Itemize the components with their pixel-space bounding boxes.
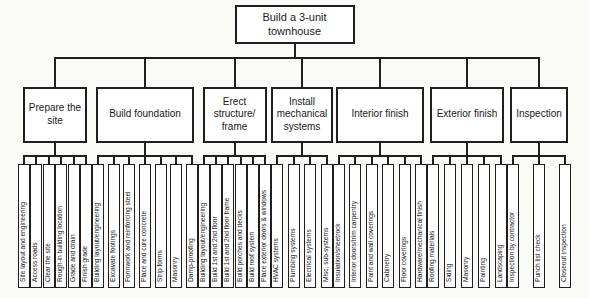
task-column: Formwork and reinforcing steel: [123, 164, 135, 288]
task-node: Landscaping: [495, 164, 507, 288]
task-column: Siding: [444, 164, 456, 288]
task-node: Strip forms: [155, 164, 167, 288]
task-row: Inspection by contractorPunch list check…: [507, 155, 571, 288]
task-node: Damp-proofing: [186, 164, 198, 288]
group-node-inspection: Inspection: [510, 87, 568, 143]
task-column: Damp-proofing: [186, 164, 198, 288]
task-node: Formwork and reinforcing steel: [123, 164, 135, 288]
task-column: Insulation/sheetrock: [333, 164, 345, 288]
task-node: Closeout inspection: [559, 164, 571, 288]
task-node: Electrical systems: [304, 164, 316, 288]
group-node-install-mechanical-systems: Install mechanical systems: [271, 87, 333, 143]
task-column: Interior doors/trim carpentry: [349, 164, 361, 288]
task-column: Misc. sub-systems: [321, 164, 333, 288]
task-node: Insulation/sheetrock: [333, 164, 345, 288]
task-node: Siding: [444, 164, 456, 288]
group-connector: [538, 143, 540, 155]
task-node: Masonry: [170, 164, 182, 288]
task-column: Build 1st and 2nd floor frame: [222, 164, 234, 288]
task-column: Build roof system: [247, 164, 259, 288]
task-column: Place exterior doors & windows: [259, 164, 271, 288]
task-column: Clear the site: [43, 164, 55, 288]
wbs-diagram: Build a 3-unit townhouse Prepare the sit…: [0, 5, 589, 298]
task-node: Grade and drain: [68, 164, 80, 288]
group-connector: [54, 143, 56, 155]
task-column: Inspection by contractor: [507, 164, 519, 288]
task-node: Hardware/mechanical finish: [415, 164, 427, 288]
task-column: Electrical systems: [304, 164, 316, 288]
task-column: Build porches and decks: [235, 164, 247, 288]
root-connector: [294, 44, 296, 57]
branch-interior-finish: Interior finishInsulation/sheetrockInter…: [333, 57, 427, 288]
root-node: Build a 3-unit townhouse: [235, 5, 355, 44]
task-node: Masonry: [461, 164, 473, 288]
task-row: Roofing materialsSidingMasonryPaintingLa…: [427, 155, 507, 288]
branch-inspection: InspectionInspection by contractorPunch …: [507, 57, 571, 288]
task-row: Building layout/engineeringBuild 1st and…: [198, 155, 271, 288]
task-row: Building layout/engineeringExcavate foot…: [92, 155, 198, 288]
task-node: Interior doors/trim carpentry: [349, 164, 361, 288]
group-connector: [379, 143, 381, 155]
task-column: Masonry: [170, 164, 182, 288]
group-node-build-foundation: Build foundation: [96, 87, 194, 143]
task-column: Finish grade: [80, 164, 92, 288]
task-node: Build 1st and 2nd floor frame: [222, 164, 234, 288]
group-connector: [466, 143, 468, 155]
task-node: Build roof system: [247, 164, 259, 288]
task-column: Plumbing systems: [288, 164, 300, 288]
task-node: Build porches and decks: [235, 164, 247, 288]
task-node: Punch list check: [533, 164, 545, 288]
task-node: Inspection by contractor: [507, 164, 519, 288]
task-node: Cabinetry: [382, 164, 394, 288]
group-node-exterior-finish: Exterior finish: [430, 87, 504, 143]
task-node: Clear the site: [43, 164, 55, 288]
task-column: Roofing materials: [427, 164, 439, 288]
task-node: Paint and wall coverings: [366, 164, 378, 288]
group-connector: [234, 143, 236, 155]
task-row: Insulation/sheetrockInterior doors/trim …: [333, 155, 427, 288]
branch-erect-structure-frame: Erect structure/​frameBuilding layout/en…: [198, 57, 271, 288]
task-node: Place exterior doors & windows: [259, 164, 271, 288]
task-row: Site layout and engineeringAccess roadsC…: [18, 155, 92, 288]
branch-prepare-the-site: Prepare the siteSite layout and engineer…: [18, 57, 92, 288]
group-node-interior-finish: Interior finish: [336, 87, 424, 143]
group-node-erect-structure-frame: Erect structure/​frame: [203, 87, 267, 143]
branch-exterior-finish: Exterior finishRoofing materialsSidingMa…: [427, 57, 507, 288]
task-node: Floor coverings: [399, 164, 411, 288]
task-column: Cabinetry: [382, 164, 394, 288]
group-connector: [301, 143, 303, 155]
task-node: Excavate footings: [108, 164, 120, 288]
task-column: Masonry: [461, 164, 473, 288]
task-node: Build 1st and 2nd floor: [210, 164, 222, 288]
task-column: Building layout/engineering: [92, 164, 104, 288]
task-column: Strip forms: [155, 164, 167, 288]
task-column: HVAC systems: [271, 164, 283, 288]
task-node: Access roads: [30, 164, 42, 288]
task-column: Access roads: [30, 164, 42, 288]
task-column: Excavate footings: [108, 164, 120, 288]
task-column: Hardware/mechanical finish: [415, 164, 427, 288]
task-column: Closeout inspection: [559, 164, 571, 288]
branch-install-mechanical-systems: Install mechanical systemsHVAC systemsPl…: [271, 57, 333, 288]
task-node: Painting: [478, 164, 490, 288]
task-node: Rough-in building location: [55, 164, 67, 288]
task-node: Building layout/engineering: [92, 164, 104, 288]
task-node: Plumbing systems: [288, 164, 300, 288]
task-column: Building layout/engineering: [198, 164, 210, 288]
task-column: Place and cure concrete: [139, 164, 151, 288]
task-node: Place and cure concrete: [139, 164, 151, 288]
task-column: Build 1st and 2nd floor: [210, 164, 222, 288]
branch-build-foundation: Build foundationBuilding layout/engineer…: [92, 57, 198, 288]
task-column: Floor coverings: [399, 164, 411, 288]
level1-row: Prepare the siteSite layout and engineer…: [0, 57, 589, 288]
task-column: Grade and drain: [68, 164, 80, 288]
task-column: Rough-in building location: [55, 164, 67, 288]
task-node: HVAC systems: [271, 164, 283, 288]
task-column: Punch list check: [533, 164, 545, 288]
group-node-prepare-the-site: Prepare the site: [23, 87, 87, 143]
task-column: Painting: [478, 164, 490, 288]
task-column: Paint and wall coverings: [366, 164, 378, 288]
task-node: Site layout and engineering: [18, 164, 30, 288]
task-node: Finish grade: [80, 164, 92, 288]
task-node: Building layout/engineering: [198, 164, 210, 288]
